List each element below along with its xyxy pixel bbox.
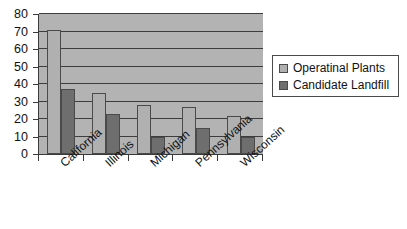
legend-swatch-icon (279, 81, 288, 90)
bar (47, 30, 61, 154)
y-tick-label: 80 (14, 7, 28, 21)
chart-legend: Operatinal PlantsCandidate Landfill (272, 55, 399, 97)
y-tick-label: 60 (14, 42, 28, 56)
y-tick-label: 50 (14, 60, 28, 74)
y-tick-label: 20 (14, 112, 28, 126)
y-tick-label: 10 (14, 130, 28, 144)
legend-entry: Operatinal Plants (279, 60, 393, 77)
legend-entry: Candidate Landfill (279, 77, 393, 94)
legend-swatch-icon (279, 64, 288, 73)
legend-label: Candidate Landfill (293, 79, 389, 92)
bar (137, 105, 151, 154)
bar-chart-figure: 01020304050607080 CaliforniaIllinoisMich… (0, 0, 407, 229)
y-tick-label: 40 (14, 77, 28, 91)
y-tick-label: 70 (14, 25, 28, 39)
legend-label: Operatinal Plants (293, 62, 385, 75)
x-axis-labels: CaliforniaIllinoisMichiganPennsylvaniaWi… (0, 158, 270, 228)
y-tick-label: 30 (14, 95, 28, 109)
y-axis: 01020304050607080 (0, 6, 33, 162)
